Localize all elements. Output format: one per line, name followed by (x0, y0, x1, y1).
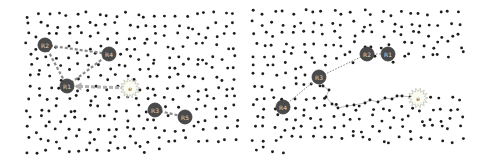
sensor-dot (99, 115, 102, 118)
sensor-dot (58, 12, 61, 15)
sensor-dot (457, 33, 460, 36)
sensor-dot (214, 127, 217, 130)
sensor-dot (299, 135, 302, 138)
sensor-dot (377, 101, 380, 104)
sensor-dot (311, 11, 314, 14)
sensor-dot (392, 116, 395, 119)
sensor-dot (147, 97, 150, 100)
sensor-dot (311, 56, 314, 59)
sensor-dot (322, 85, 325, 88)
sensor-dot (103, 114, 106, 117)
sensor-dot (108, 97, 111, 100)
sensor-dot (94, 95, 97, 98)
sensor-dot (461, 116, 464, 119)
sensor-dot (113, 118, 116, 121)
sensor-dot (451, 35, 454, 38)
sensor-dot (291, 46, 294, 49)
sensor-dot (146, 118, 149, 121)
sensor-dot (283, 50, 286, 53)
sensor-dot (217, 140, 220, 143)
sensor-dot (231, 87, 234, 90)
sensor-dot (168, 76, 171, 79)
sensor-dot (381, 20, 384, 23)
sensor-dot (96, 105, 99, 108)
sensor-dot (346, 105, 349, 108)
sensor-dot (281, 10, 284, 13)
sensor-dot (290, 52, 293, 55)
sensor-dot (323, 136, 326, 139)
path-line (319, 77, 418, 109)
sensor-dot (403, 41, 406, 44)
sensor-dot (89, 48, 92, 51)
sensor-dot (176, 86, 179, 89)
sensor-dot (197, 90, 200, 93)
sensor-dot (36, 152, 39, 155)
sensor-dot (109, 141, 112, 144)
sensor-dot (146, 38, 149, 41)
sensor-dot (409, 130, 412, 133)
sensor-dot (295, 82, 298, 85)
sensor-dot (399, 33, 402, 36)
sensor-dot (233, 78, 236, 81)
sensor-dot (226, 67, 229, 70)
sensor-dot (432, 109, 435, 112)
sensor-dot (184, 136, 187, 139)
figure-canvas: e R2R4R1R3R5 e R2R1R3R4 (0, 0, 488, 161)
sensor-dot (176, 32, 179, 35)
sensor-dot (281, 31, 284, 34)
sensor-dot (77, 25, 80, 28)
sensor-dot (212, 97, 215, 100)
sensor-dot (163, 34, 166, 37)
sensor-dot (164, 105, 167, 108)
sensor-dot (389, 14, 392, 17)
sensor-dot (292, 13, 295, 16)
sensor-dot (147, 54, 150, 57)
sensor-dot (40, 109, 43, 112)
sensor-dot (364, 102, 367, 105)
sensor-dot (64, 14, 67, 17)
sensor-dot (77, 150, 80, 153)
sensor-dot (59, 64, 62, 67)
sensor-dot (35, 131, 38, 134)
sensor-dot (153, 59, 156, 62)
sensor-dot (227, 47, 230, 50)
sensor-dot (129, 55, 132, 58)
sensor-dot (304, 74, 307, 77)
sensor-dot (354, 109, 357, 112)
sensor-dot (372, 108, 375, 111)
sensor-dot (73, 110, 76, 113)
sensor-dot (436, 53, 439, 56)
sensor-dot (174, 130, 177, 133)
sensor-dot (401, 125, 404, 128)
sensor-dot (84, 11, 87, 14)
sensor-dot (457, 10, 460, 13)
sensor-dot (85, 148, 88, 151)
sensor-dot (29, 85, 32, 88)
sensor-dot (166, 87, 169, 90)
sensor-dot (104, 23, 107, 26)
sensor-dot (163, 15, 166, 18)
sensor-dot (436, 24, 439, 27)
sensor-dot (88, 142, 91, 145)
sensor-dot (265, 31, 268, 34)
sensor-dot (173, 67, 176, 70)
sensor-dot (358, 105, 361, 108)
sensor-dot (349, 11, 352, 14)
sensor-dot (39, 138, 42, 141)
sensor-dot (407, 115, 410, 118)
sensor-dot (108, 103, 111, 106)
sensor-dot (380, 120, 383, 123)
sensor-dot (233, 94, 236, 97)
sensor-dot (30, 53, 33, 56)
sensor-dot (99, 13, 102, 16)
sensor-dot (134, 142, 137, 145)
sensor-dot (233, 32, 236, 35)
sensor-dot (55, 141, 58, 144)
sensor-dot (312, 135, 315, 138)
sensor-dot (99, 45, 102, 48)
sensor-dot (432, 47, 435, 50)
sensor-dot (212, 11, 215, 14)
sensor-dot (394, 23, 397, 26)
sensor-dot (302, 114, 305, 117)
sensor-dot (232, 66, 235, 69)
